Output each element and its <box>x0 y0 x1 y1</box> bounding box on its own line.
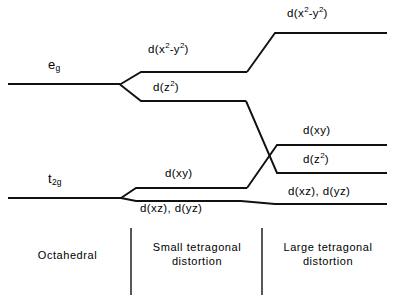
orbital-label-large-dx2y2: d(x2-y2) <box>287 8 328 20</box>
column-caption-large-tetragonal-line1: Large tetragonal <box>284 241 373 253</box>
orbital-label-eg-dx2y2-mid: d(x2-y2) <box>148 44 189 56</box>
column-caption-small-tetragonal: Small tetragonal distortion <box>137 240 257 268</box>
column-caption-octahedral: Octahedral <box>10 248 125 262</box>
orbital-label-t2g-dxzdyz-mid: d(xz), d(yz) <box>140 203 202 215</box>
term-label-eg: eg <box>48 58 60 71</box>
correlation-eg-to-dx2y2 <box>120 72 247 85</box>
orbital-label-large-dxy: d(xy) <box>303 125 331 137</box>
crystal-field-splitting-diagram: eg t2g d(x2-y2) d(z2) d(xy) d(xz), d(yz)… <box>0 0 396 301</box>
column-caption-large-tetragonal: Large tetragonal distortion <box>268 240 388 268</box>
orbital-label-large-dxzdyz: d(xz), d(yz) <box>288 186 350 198</box>
term-label-t2g: t2g <box>48 172 61 185</box>
correlation-dx2y2-to-large <box>247 33 387 72</box>
correlation-t2g-to-dxy <box>121 188 247 198</box>
correlation-eg-to-dz2 <box>120 85 246 102</box>
column-caption-octahedral-line1: Octahedral <box>38 249 97 261</box>
column-caption-small-tetragonal-line1: Small tetragonal <box>153 241 241 253</box>
column-caption-large-tetragonal-line2: distortion <box>303 255 353 267</box>
orbital-label-t2g-dxy-mid: d(xy) <box>165 168 193 180</box>
correlation-t2g-to-dxzdyz <box>121 198 241 201</box>
correlation-dxzdyz-to-large <box>241 201 387 204</box>
orbital-label-eg-dz2-mid: d(z2) <box>153 82 179 94</box>
column-caption-small-tetragonal-line2: distortion <box>172 255 222 267</box>
orbital-label-large-dz2: d(z2) <box>303 154 329 166</box>
